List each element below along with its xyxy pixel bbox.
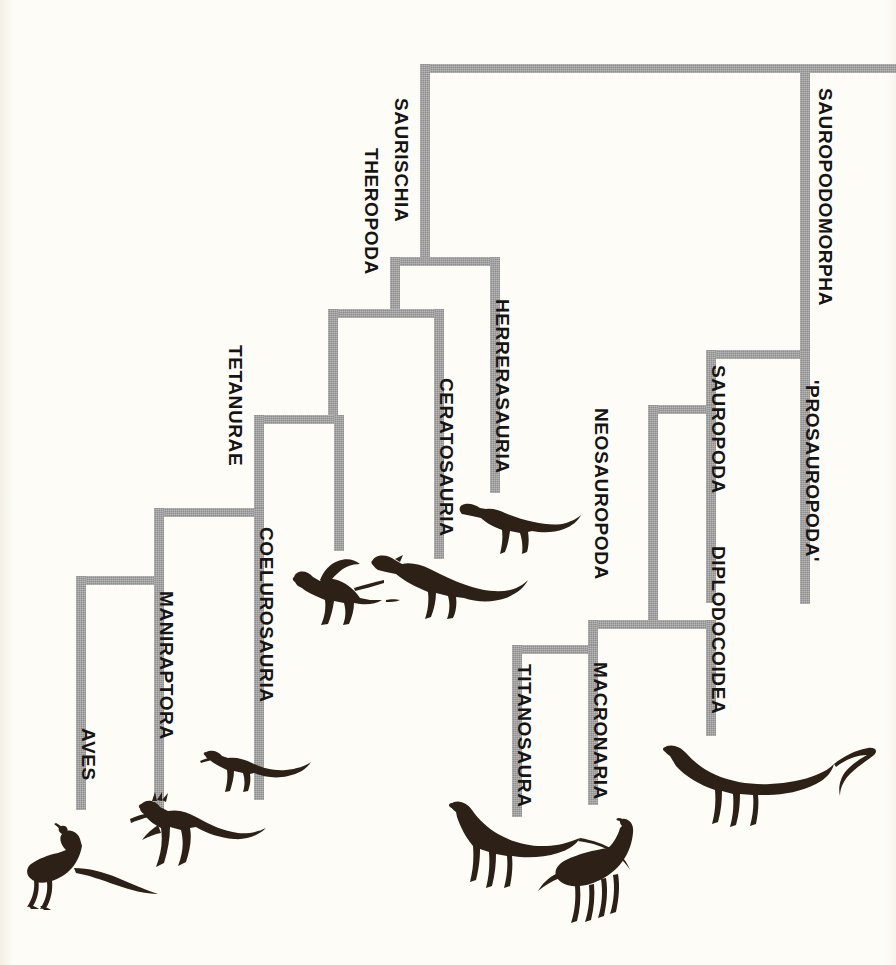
clade-label-titanosaura: TITANOSAURA [515, 664, 534, 807]
branch-coelurosauria-parent-stem [154, 508, 164, 582]
branch-sauropodomorpha-horizontal [706, 350, 810, 359]
macronarian-silhouette [548, 818, 713, 923]
branch-tetanurae-parent-stem [254, 415, 264, 513]
branch-sauropoda-left-stem [648, 405, 658, 627]
clade-label-theropoda: THEROPODA [362, 148, 381, 275]
page-edge-shadow-left [0, 0, 14, 965]
clade-label-diplodocoidea: DIPLODOCOIDEA [709, 546, 728, 714]
bird-silhouette [18, 820, 168, 910]
branch-macronaria-horizontal [512, 645, 598, 654]
cladogram-figure: SAURISCHIA THEROPODA HERRERASAURIA CERAT… [0, 0, 896, 965]
branch-tetanurae-terminal [334, 415, 344, 551]
branch-ceratosauria-parent-stem [328, 309, 338, 419]
clade-label-aves: AVES [79, 728, 98, 781]
branch-saurischia-stem [420, 64, 430, 260]
spinosaur-silhouette [290, 556, 400, 626]
branch-tetanurae-horizontal [254, 415, 344, 424]
page-edge-shadow-right [886, 0, 896, 965]
branch-sauropodomorpha-stem [800, 64, 810, 359]
clade-label-coelurosauria: COELUROSAURIA [257, 527, 276, 703]
branch-ceratosauria-horizontal [328, 309, 444, 318]
branch-saurischia-horizontal [420, 64, 896, 73]
branch-maniraptora-horizontal [76, 576, 164, 585]
clade-label-sauropodomorpha: SAUROPODOMORPHA [816, 88, 835, 306]
clade-label-prosauropoda: 'PROSAUROPODA' [803, 380, 822, 562]
clade-label-herrerasauria: HERRERASAURIA [493, 299, 512, 474]
branch-theropoda-horizontal [390, 257, 500, 266]
herrerasaur-silhouette [452, 498, 582, 560]
branch-theropoda-stem [390, 257, 400, 315]
clade-label-sauropoda: SAUROPODA [709, 365, 728, 494]
clade-label-macronaria: MACRONARIA [591, 662, 610, 800]
branch-neosauropoda-horizontal [588, 620, 716, 629]
branch-coelurosauria-horizontal [154, 508, 264, 517]
coelurosaur-silhouette [200, 745, 312, 793]
clade-label-maniraptora: MANIRAPTORA [157, 591, 176, 740]
clade-label-neosauropoda: NEOSAUROPODA [592, 408, 611, 580]
clade-label-tetanurae: TETANURAE [226, 345, 245, 466]
clade-label-saurischia: SAURISCHIA [392, 98, 411, 222]
